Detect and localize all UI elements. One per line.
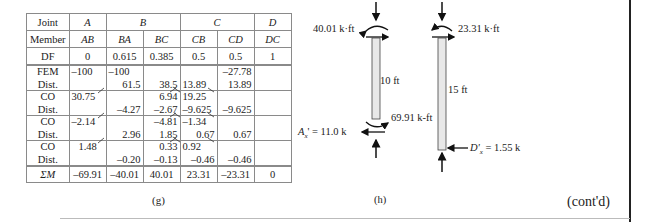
page-border-vertical	[629, 0, 631, 222]
member2-length: 15 ft	[448, 84, 468, 95]
page-border-horizontal	[60, 218, 630, 219]
member1-length: 10 ft	[380, 75, 400, 86]
member2-reaction: D'x = 1.55 k	[470, 142, 520, 156]
member1-bottom-moment: 69.91 k-ft	[391, 112, 432, 123]
diagram-labels: 40.01 k·ft 10 ft 69.91 k-ft Ax' = 11.0 k…	[290, 0, 630, 222]
member2-top-moment: 23.31 k·ft	[458, 23, 499, 34]
member1-top-moment: 40.01 k·ft	[313, 23, 354, 34]
member1-reaction: Ax' = 11.0 k	[298, 126, 346, 140]
diagram-caption: (h)	[374, 194, 386, 205]
continued-label: (cont'd)	[567, 194, 610, 210]
